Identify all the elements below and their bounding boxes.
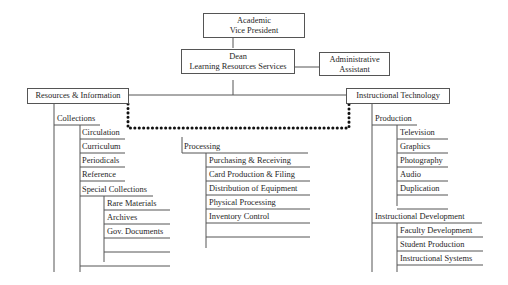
production-item: Duplication (400, 184, 440, 194)
production-item: Photography (400, 156, 443, 166)
academic-vp-box: Academic Vice President (203, 13, 305, 38)
special-collections-item: Gov. Documents (107, 227, 163, 237)
box-line: Dean (182, 52, 294, 62)
processing-item: Distribution of Equipment (209, 184, 297, 194)
instructional-technology-box: Instructional Technology (346, 88, 450, 104)
box-line: Instructional Technology (347, 91, 449, 101)
development-item: Student Production (400, 240, 464, 250)
processing-item: Inventory Control (209, 212, 269, 222)
administrative-assistant-box: Administrative Assistant (319, 52, 390, 76)
special-collections-item: Archives (107, 213, 137, 223)
box-line: Assistant (320, 65, 389, 75)
processing-item: Purchasing & Receiving (209, 156, 291, 166)
collections-item: Reference (82, 170, 116, 180)
dean-box: Dean Learning Resources Services (181, 49, 295, 74)
collections-item: Periodicals (82, 156, 119, 166)
collections-label: Collections (57, 114, 95, 124)
special-collections-item: Rare Materials (107, 199, 157, 209)
processing-item: Card Production & Filing (209, 170, 295, 180)
collections-item: Circulation (82, 128, 120, 138)
processing-label: Processing (184, 142, 220, 152)
box-line: Vice President (204, 26, 304, 36)
dotted-coordination-line (128, 104, 349, 128)
collections-item: Curriculum (82, 142, 121, 152)
production-label: Production (375, 114, 412, 124)
box-line: Learning Resources Services (182, 62, 294, 72)
production-item: Graphics (400, 142, 430, 152)
collections-item: Special Collections (82, 185, 147, 195)
processing-item: Physical Processing (209, 198, 276, 208)
development-item: Instructional Systems (400, 254, 472, 264)
box-line: Academic (204, 16, 304, 26)
production-item: Audio (400, 170, 421, 180)
resources-information-box: Resources & Information (27, 88, 129, 104)
development-item: Faculty Development (400, 226, 472, 236)
box-line: Administrative (320, 55, 389, 65)
development-label: Instructional Development (375, 212, 465, 222)
production-item: Television (400, 128, 435, 138)
box-line: Resources & Information (28, 91, 128, 101)
